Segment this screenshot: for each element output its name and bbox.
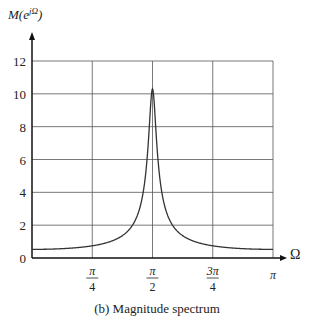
- x-tick-label: π: [149, 264, 156, 278]
- svg-text:4: 4: [89, 280, 95, 294]
- magnitude-spectrum-chart: 024681012π4π23π4π: [0, 0, 314, 300]
- y-tick-label: 4: [20, 185, 27, 200]
- y-tick-label: 6: [20, 153, 27, 168]
- x-tick-label: π: [270, 268, 277, 282]
- svg-text:4: 4: [210, 280, 216, 294]
- axes: [29, 32, 287, 261]
- y-tick-label: 0: [20, 251, 27, 266]
- y-tick-label: 8: [20, 120, 27, 135]
- x-tick-label: 3π: [206, 264, 220, 278]
- y-tick-label: 12: [13, 54, 26, 69]
- y-tick-label: 2: [20, 218, 27, 233]
- figure-caption: (b) Magnitude spectrum: [0, 301, 314, 317]
- svg-text:2: 2: [150, 280, 156, 294]
- x-tick-label: π: [89, 264, 96, 278]
- y-tick-label: 10: [13, 87, 26, 102]
